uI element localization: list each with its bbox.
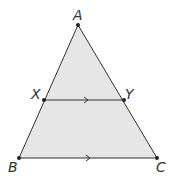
label-y: Y xyxy=(125,86,135,102)
point-a xyxy=(76,23,80,27)
label-x: X xyxy=(30,86,41,102)
label-c: C xyxy=(156,159,166,175)
point-x xyxy=(42,98,46,102)
triangle-diagram: A X Y B C xyxy=(0,0,175,182)
label-b: B xyxy=(8,159,18,175)
label-a: A xyxy=(72,7,83,23)
